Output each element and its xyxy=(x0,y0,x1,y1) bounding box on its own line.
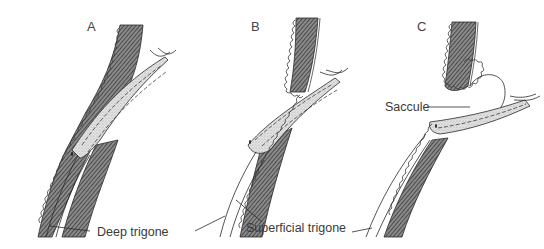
ureteral-orifice xyxy=(249,140,251,144)
deep-trigone-label: Deep trigone xyxy=(97,226,169,239)
panel-label-c: C xyxy=(417,20,426,33)
saccule-label: Saccule xyxy=(385,101,429,114)
panel-b-artwork xyxy=(195,18,348,237)
ureteral-orifice xyxy=(435,124,437,128)
diagram-artwork xyxy=(0,0,544,249)
superficial-trigone-label: Superficial trigone xyxy=(246,222,346,235)
detrusor-muscle-upper xyxy=(290,18,318,92)
ureter xyxy=(429,100,530,134)
detrusor-muscle-lower xyxy=(384,138,448,237)
panel-a-artwork xyxy=(38,25,176,237)
deep-trigone-leader-b xyxy=(195,216,225,231)
panel-label-a: A xyxy=(87,20,96,33)
panel-label-b: B xyxy=(251,20,260,33)
ureteral-orifice xyxy=(71,152,73,156)
panel-c-artwork xyxy=(352,22,540,237)
ureterovesical-junction-diagram: A B C Deep trigone Superficial trigone S… xyxy=(0,0,544,249)
